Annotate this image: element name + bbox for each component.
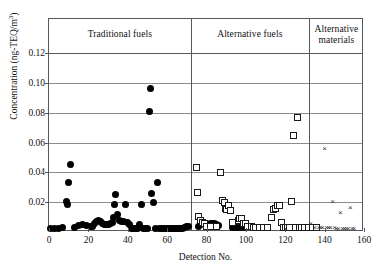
gridline-y-0.08 [49,113,362,114]
data-point-open-square [222,205,229,212]
data-point-open-square [229,219,236,226]
data-point-cross: × [337,209,344,216]
y-tick-label: 0.10 [1,78,45,88]
data-point-filled-circle [181,224,188,231]
data-point-open-square [286,224,293,231]
data-point-filled-circle [130,225,137,232]
data-point-open-square [268,214,275,221]
x-tick-mark [207,228,208,232]
data-point-filled-circle [134,225,141,232]
data-point-filled-circle [147,85,154,92]
y-tick-mark [45,83,49,84]
data-point-cross: × [343,225,350,232]
data-point-filled-circle [95,217,102,224]
data-point-filled-circle [140,225,147,232]
data-point-filled-circle [97,218,104,225]
data-point-cross: × [315,224,322,231]
panel-title-1: Traditional fuels [49,29,191,40]
data-point-filled-circle [152,225,159,232]
x-tick-label: 100 [226,235,266,246]
y-tick-label: 0.12 [1,48,45,58]
data-point-filled-circle [175,225,182,232]
y-tick-label: 0.08 [1,108,45,118]
data-point-filled-circle [195,223,202,230]
data-point-filled-circle [209,220,216,227]
data-point-filled-circle [207,220,214,227]
data-point-filled-circle [107,220,114,227]
y-axis-title-exponent: 3 [7,16,15,20]
data-point-cross: × [351,225,358,232]
data-point-cross: × [339,225,346,232]
data-point-cross: × [335,225,342,232]
data-point-filled-circle [59,224,66,231]
y-tick-label: 0.06 [1,138,45,148]
data-point-filled-circle [112,191,119,198]
data-point-open-square [260,224,267,231]
data-point-open-square [274,202,281,209]
data-point-open-square [213,223,220,230]
data-point-filled-circle [148,190,155,197]
y-axis-title-main: Concentration (ng-TEQ/m [9,19,19,120]
panel-divider-2 [309,19,310,230]
y-tick-label: 0.02 [1,197,45,207]
data-point-filled-circle [197,221,204,228]
data-point-open-square [240,220,247,227]
data-point-open-square [264,224,271,231]
x-tick-label: 80 [187,235,227,246]
data-point-filled-circle [65,179,72,186]
data-point-open-square [252,224,259,231]
gridline-y-0.02 [49,202,362,203]
data-point-open-square [294,114,301,121]
data-point-open-square [250,224,257,231]
x-axis-title: Detection No. [48,252,363,262]
data-point-cross: × [333,225,340,232]
data-point-open-square [292,224,299,231]
y-tick-mark [45,202,49,203]
data-point-open-square [313,224,320,231]
data-point-open-square [238,215,245,222]
data-point-open-square [207,223,214,230]
data-point-open-square [194,189,201,196]
x-tick-label: 0 [29,235,69,246]
data-point-open-square [235,217,242,224]
data-point-open-square [296,224,303,231]
data-point-open-square [223,206,230,213]
x-tick-label: 120 [265,235,305,246]
data-point-open-square [248,223,255,230]
gridline-y-0.10 [49,83,362,84]
data-point-filled-circle [154,179,161,186]
data-point-filled-circle [144,225,151,232]
data-point-open-square [290,132,297,139]
data-point-filled-circle [168,225,175,232]
gridline-y-0.06 [49,143,362,144]
data-point-open-square [298,224,305,231]
data-point-filled-circle [170,225,177,232]
data-point-filled-circle [71,224,78,231]
data-point-cross: × [321,145,328,152]
data-point-cross: × [345,225,352,232]
x-tick-mark [49,228,50,232]
data-point-cross: × [325,224,332,231]
data-point-filled-circle [136,221,143,228]
data-point-filled-circle [173,225,180,232]
panel-title-3: Alternative materials [309,24,364,46]
data-point-filled-circle [156,225,163,232]
gridline-y-0.04 [49,172,362,173]
data-point-filled-circle [229,224,236,231]
data-point-filled-circle [114,211,121,218]
x-tick-mark [128,228,129,232]
x-tick-mark [325,228,326,232]
data-point-open-square [256,224,263,231]
data-point-filled-circle [236,224,243,231]
data-point-filled-circle [79,221,86,228]
data-point-cross: × [327,224,334,231]
data-point-filled-circle [128,225,135,232]
plot-area: Traditional fuelsAlternative fuelsAltern… [48,18,363,231]
data-point-open-square [227,207,234,214]
data-point-cross: × [341,225,348,232]
data-point-filled-circle [211,220,218,227]
x-tick-mark [364,228,365,232]
y-axis-title-tail: ) [9,12,19,15]
data-point-filled-circle [103,221,110,228]
data-point-filled-circle [172,225,179,232]
